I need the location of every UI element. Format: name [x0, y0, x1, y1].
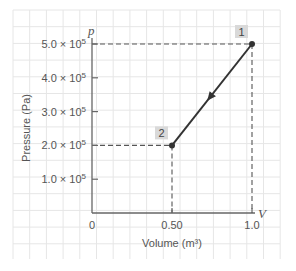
- x-axis-title: Volume (m³): [142, 237, 202, 249]
- x-axis-symbol: V: [258, 206, 268, 221]
- state-point: [169, 142, 175, 148]
- process-line: [172, 44, 252, 145]
- y-axis-symbol: p: [87, 23, 95, 38]
- y-tick-label: 1.0 × 105: [41, 172, 86, 185]
- y-tick-label: 3.0 × 105: [41, 105, 86, 118]
- y-tick-label: 5.0 × 105: [41, 37, 86, 50]
- state-label: 1: [238, 26, 244, 38]
- y-ticks: 1.0 × 1052.0 × 1053.0 × 1054.0 × 1055.0 …: [41, 37, 98, 185]
- state-point: [249, 41, 255, 47]
- pv-diagram: 1.0 × 1052.0 × 1053.0 × 1054.0 × 1055.0 …: [0, 0, 296, 271]
- dashed-guides: [92, 44, 252, 213]
- state-label: 2: [158, 127, 164, 139]
- y-axis-title: Pressure (Pa): [20, 94, 32, 162]
- y-tick-label: 4.0 × 105: [41, 71, 86, 84]
- x-tick-label: 0.50: [161, 219, 182, 231]
- x-tick-label: 0: [89, 219, 95, 231]
- y-tick-label: 2.0 × 105: [41, 138, 86, 151]
